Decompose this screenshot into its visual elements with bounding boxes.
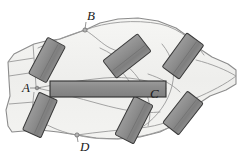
anatomical-diagram-svg: ABCD <box>0 0 239 157</box>
figure-container: ABCD A B C D <box>0 0 239 157</box>
label-d: D <box>79 139 90 154</box>
label-c: C <box>150 86 159 101</box>
label-b: B <box>87 8 95 23</box>
center-bar-group <box>50 81 166 97</box>
center-bar <box>50 81 166 97</box>
label-a: A <box>21 80 30 95</box>
